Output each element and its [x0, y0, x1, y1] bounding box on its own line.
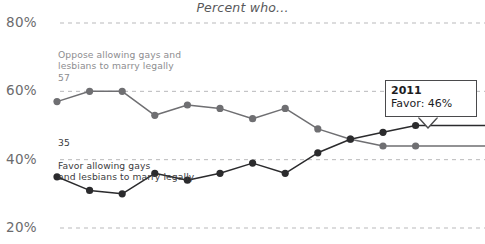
- data-point[interactable]: [314, 125, 321, 132]
- tooltip-content: 2011 Favor: 46%: [386, 81, 476, 110]
- data-point[interactable]: [184, 101, 191, 108]
- data-point[interactable]: [379, 129, 386, 136]
- annotation-oppose-label: Oppose allowing gays and lesbians to mar…: [58, 49, 181, 71]
- data-point[interactable]: [347, 136, 354, 143]
- annotation-favor-label: Favor allowing gays and lesbians to marr…: [58, 160, 194, 182]
- data-point[interactable]: [216, 170, 223, 177]
- data-point[interactable]: [53, 98, 60, 105]
- data-point[interactable]: [249, 115, 256, 122]
- data-point[interactable]: [314, 149, 321, 156]
- tooltip-year: 2011: [391, 85, 476, 97]
- chart-container: Percent who... 80% 60% 40% 20% Oppose al…: [0, 0, 485, 244]
- data-point[interactable]: [216, 105, 223, 112]
- tooltip-value: Favor: 46%: [391, 97, 476, 110]
- data-point[interactable]: [282, 105, 289, 112]
- plot-area: [0, 0, 485, 244]
- annotation-oppose-value: 57: [58, 72, 181, 83]
- data-point[interactable]: [282, 170, 289, 177]
- annotation-favor-value: 35: [58, 137, 194, 148]
- data-point[interactable]: [119, 190, 126, 197]
- annotation-oppose: Oppose allowing gays and lesbians to mar…: [58, 38, 181, 94]
- tooltip-pointer-icon: [418, 117, 438, 129]
- data-point[interactable]: [86, 187, 93, 194]
- tooltip-callout: 2011 Favor: 46%: [385, 80, 477, 117]
- data-point[interactable]: [249, 160, 256, 167]
- data-point[interactable]: [151, 112, 158, 119]
- data-point[interactable]: [412, 142, 419, 149]
- annotation-favor: 35 Favor allowing gays and lesbians to m…: [58, 126, 194, 182]
- data-point[interactable]: [379, 142, 386, 149]
